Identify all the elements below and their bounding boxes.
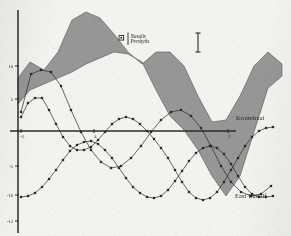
- data-point-marker: [167, 157, 169, 159]
- data-point-marker: [202, 147, 204, 149]
- data-point-marker: [272, 195, 274, 197]
- data-point-marker: [41, 186, 43, 188]
- data-point-marker: [170, 111, 172, 113]
- data-point-marker: [48, 109, 50, 111]
- legend-label-presbytis: Presbytis: [130, 38, 150, 44]
- data-point-marker: [181, 170, 183, 172]
- data-point-marker: [188, 160, 190, 162]
- data-point-marker: [110, 167, 112, 169]
- data-point-marker: [90, 140, 92, 142]
- data-point-marker: [69, 145, 71, 147]
- data-point-marker: [230, 163, 232, 165]
- data-point-marker: [83, 149, 85, 151]
- y-tick-label-4: -15: [7, 219, 14, 224]
- data-point-marker: [20, 196, 22, 198]
- data-point-marker: [195, 197, 197, 199]
- data-point-marker: [244, 186, 246, 188]
- data-point-marker: [216, 147, 218, 149]
- data-point-marker: [97, 143, 99, 145]
- data-point-marker: [111, 157, 113, 159]
- data-point-marker: [150, 131, 152, 133]
- data-point-marker: [90, 146, 92, 148]
- data-point-marker: [139, 123, 141, 125]
- data-point-marker: [100, 161, 102, 163]
- data-point-marker: [202, 199, 204, 201]
- data-point-marker: [216, 191, 218, 193]
- data-point-marker: [140, 145, 142, 147]
- data-point-marker: [190, 115, 192, 117]
- data-point-marker: [70, 109, 72, 111]
- data-point-marker: [146, 130, 148, 132]
- data-point-marker: [174, 180, 176, 182]
- data-point-marker: [230, 181, 232, 183]
- data-point-marker: [180, 109, 182, 111]
- data-point-marker: [153, 138, 155, 140]
- data-point-marker: [181, 181, 183, 183]
- data-point-marker: [160, 195, 162, 197]
- data-point-marker: [272, 126, 274, 128]
- data-point-marker: [174, 169, 176, 171]
- data-point-marker: [265, 127, 267, 129]
- data-point-marker: [34, 97, 36, 99]
- data-point-marker: [188, 191, 190, 193]
- data-point-marker: [195, 152, 197, 154]
- data-point-marker: [104, 131, 106, 133]
- data-point-marker: [118, 118, 120, 120]
- data-point-marker: [160, 119, 162, 121]
- data-point-marker: [30, 73, 32, 75]
- chart-plot: 105-5-10-15-542 KromdraaiEast RudolfNasa…: [0, 0, 291, 236]
- data-point-marker: [160, 147, 162, 149]
- data-point-marker: [34, 192, 36, 194]
- data-point-marker: [210, 145, 212, 147]
- data-point-marker: [125, 116, 127, 118]
- data-point-marker: [111, 123, 113, 125]
- data-point-marker: [270, 185, 272, 187]
- data-point-marker: [69, 150, 71, 152]
- data-point-marker: [118, 167, 120, 169]
- data-point-marker: [48, 178, 50, 180]
- data-point-marker: [62, 159, 64, 161]
- data-point-marker: [146, 196, 148, 198]
- data-point-marker: [200, 127, 202, 129]
- data-point-marker: [83, 141, 85, 143]
- data-point-marker: [130, 157, 132, 159]
- data-point-marker: [139, 192, 141, 194]
- data-point-marker: [97, 139, 99, 141]
- data-point-marker: [60, 85, 62, 87]
- east-rudolf-series-label: East Rudolf: [235, 192, 267, 199]
- data-point-marker: [50, 71, 52, 73]
- data-point-marker: [76, 149, 78, 151]
- figure-canvas: 105-5-10-15-542 KromdraaiEast RudolfNasa…: [0, 0, 291, 236]
- data-point-marker: [80, 131, 82, 133]
- data-point-marker: [62, 136, 64, 138]
- data-point-marker: [132, 186, 134, 188]
- data-point-marker: [251, 136, 253, 138]
- data-point-marker: [104, 149, 106, 151]
- data-point-marker: [132, 118, 134, 120]
- data-point-marker: [230, 169, 232, 171]
- data-point-marker: [20, 116, 22, 118]
- data-point-marker: [120, 165, 122, 167]
- square-marker-icon-core: [121, 37, 123, 39]
- data-point-marker: [41, 97, 43, 99]
- data-point-marker: [55, 123, 57, 125]
- data-point-marker: [209, 197, 211, 199]
- data-point-marker: [55, 169, 57, 171]
- data-point-marker: [76, 144, 78, 146]
- data-point-marker: [167, 189, 169, 191]
- kromdraai-series-label: Kromdraai: [236, 114, 265, 121]
- data-point-marker: [244, 145, 246, 147]
- data-point-marker: [20, 111, 22, 113]
- data-point-marker: [223, 153, 225, 155]
- data-point-marker: [220, 165, 222, 167]
- data-point-marker: [27, 195, 29, 197]
- data-point-marker: [125, 177, 127, 179]
- data-point-marker: [237, 157, 239, 159]
- data-point-marker: [153, 197, 155, 199]
- data-point-marker: [40, 69, 42, 71]
- data-point-marker: [90, 149, 92, 151]
- data-point-marker: [27, 102, 29, 104]
- data-point-marker: [258, 130, 260, 132]
- data-point-marker: [237, 175, 239, 177]
- data-point-marker: [223, 181, 225, 183]
